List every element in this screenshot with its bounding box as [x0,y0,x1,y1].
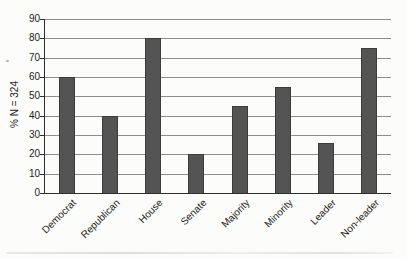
x-label-senate: Senate [178,197,208,227]
y-tick-mark-40 [40,116,44,117]
bar-chart-figure: % N = 324 0102030405060708090 DemocratRe… [0,0,407,259]
y-tick-label-20: 20 [2,148,40,160]
x-label-leader: Leader [308,197,338,227]
x-label-republican: Republican [78,197,121,240]
y-tick-mark-90 [40,19,44,20]
y-tick-mark-30 [40,135,44,136]
bar-house [145,38,161,193]
y-tick-mark-10 [40,174,44,175]
x-label-non-leader: Non-leader [338,197,381,240]
y-tick-mark-70 [40,58,44,59]
gridline-60 [45,77,391,78]
gridline-50 [45,96,391,97]
y-tick-mark-50 [40,96,44,97]
y-tick-label-90: 90 [2,13,40,25]
y-tick-label-10: 10 [2,168,40,180]
gridline-20 [45,154,391,155]
scan-smudge [6,252,393,254]
bar-democrat [59,77,75,193]
plot-area [44,19,391,194]
y-tick-label-0: 0 [2,187,40,199]
gridline-80 [45,38,391,39]
y-tick-mark-20 [40,154,44,155]
bar-republican [102,116,118,193]
bar-senate [188,154,204,193]
bar-majority [232,106,248,193]
y-tick-mark-0 [40,193,44,194]
gridline-40 [45,116,391,117]
x-label-democrat: Democrat [40,197,78,235]
x-label-minority: Minority [262,197,295,230]
y-tick-label-40: 40 [2,110,40,122]
y-tick-label-80: 80 [2,32,40,44]
bar-leader [318,143,334,193]
gridline-70 [45,58,391,59]
gridline-10 [45,174,391,175]
y-tick-mark-60 [40,77,44,78]
x-label-majority: Majority [219,197,252,230]
gridline-30 [45,135,391,136]
y-tick-label-70: 70 [2,52,40,64]
y-tick-label-50: 50 [2,90,40,102]
y-tick-label-60: 60 [2,71,40,83]
bar-minority [275,87,291,193]
y-tick-label-30: 30 [2,129,40,141]
gridline-90 [45,19,391,20]
bar-non-leader [361,48,377,193]
y-tick-mark-80 [40,38,44,39]
x-label-house: House [137,197,165,225]
